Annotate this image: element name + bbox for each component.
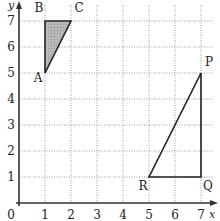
y-axis-arrow-icon bbox=[16, 1, 22, 9]
x-tick-labels: 0 1 2 3 4 5 6 7 x bbox=[7, 208, 216, 221]
svg-text:2: 2 bbox=[7, 144, 15, 158]
svg-text:6: 6 bbox=[171, 208, 179, 221]
vertex-label-c: C bbox=[74, 1, 83, 15]
svg-text:3: 3 bbox=[93, 208, 101, 221]
svg-text:4: 4 bbox=[7, 92, 15, 106]
svg-text:6: 6 bbox=[7, 40, 15, 54]
x-axis-label: x bbox=[209, 208, 216, 221]
vertex-label-b: B bbox=[35, 1, 44, 15]
svg-text:5: 5 bbox=[145, 208, 153, 221]
svg-text:4: 4 bbox=[119, 208, 127, 221]
vertex-label-a: A bbox=[33, 71, 43, 85]
y-tick-labels: 1 2 3 4 5 6 7 y bbox=[7, 0, 15, 184]
svg-text:3: 3 bbox=[7, 118, 15, 132]
svg-text:7: 7 bbox=[7, 14, 15, 28]
vertex-label-p: P bbox=[205, 55, 213, 69]
vertex-label-q: Q bbox=[203, 179, 213, 193]
coordinate-diagram: 0 1 2 3 4 5 6 7 x 1 2 3 4 5 6 7 y A B C … bbox=[0, 0, 220, 221]
triangle-abc: A B C bbox=[33, 1, 84, 85]
svg-text:5: 5 bbox=[7, 66, 15, 80]
svg-text:2: 2 bbox=[67, 208, 75, 221]
y-axis-label: y bbox=[7, 0, 15, 12]
x-axis-arrow-icon bbox=[210, 200, 218, 206]
svg-text:1: 1 bbox=[7, 170, 15, 184]
origin-label: 0 bbox=[7, 208, 15, 221]
svg-text:7: 7 bbox=[197, 208, 205, 221]
svg-text:1: 1 bbox=[41, 208, 49, 221]
vertex-label-r: R bbox=[138, 179, 148, 193]
triangle-pqr: P Q R bbox=[138, 55, 213, 193]
